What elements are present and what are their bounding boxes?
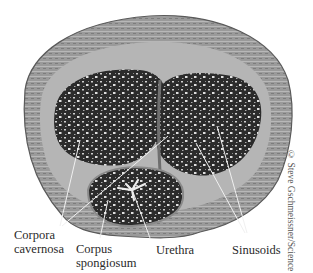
label-corpora-cavernosa-line2: cavernosa [14, 242, 64, 256]
label-sinusoids: Sinusoids [232, 243, 281, 257]
label-corpora-cavernosa-line1: Corpora [14, 228, 64, 242]
corpus-spongiosum [88, 167, 183, 226]
label-corpus-spongiosum-line2: spongiosum [76, 256, 136, 270]
label-corpus-spongiosum: Corpus spongiosum [76, 242, 136, 270]
label-corpora-cavernosa: Corpora cavernosa [14, 228, 64, 256]
label-corpus-spongiosum-line1: Corpus [76, 242, 136, 256]
label-urethra: Urethra [156, 243, 194, 257]
photo-credit: © Steve Gschmeissner/Science Source [286, 150, 296, 270]
